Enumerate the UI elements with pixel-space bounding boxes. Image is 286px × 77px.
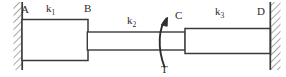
label-k3-subscript: 3 [221, 11, 225, 20]
label-torque-t: T [161, 64, 168, 75]
label-stiffness-k2: k2 [127, 15, 136, 29]
segment-ab-body [22, 20, 88, 61]
diagram-canvas [0, 0, 286, 77]
torsional-shaft-diagram: A k1 B k2 C k3 D T [0, 0, 286, 77]
segment-bc-body [87, 32, 185, 50]
torque-arrowhead [161, 17, 168, 26]
segment-cd-body [185, 29, 271, 54]
segment-bc-outline [87, 32, 185, 50]
segment-ab-outline [22, 20, 88, 61]
label-k1-subscript: 1 [52, 8, 56, 17]
label-stiffness-k1: k1 [46, 3, 55, 17]
label-node-c: C [175, 10, 182, 21]
label-node-d: D [257, 6, 265, 17]
segment-cd-outline [185, 29, 271, 54]
right-wall-hatching [271, 2, 281, 70]
label-node-a: A [21, 4, 29, 15]
right-wall-support [270, 2, 280, 70]
label-k2-subscript: 2 [133, 20, 137, 29]
label-node-b: B [84, 3, 91, 14]
label-stiffness-k3: k3 [215, 6, 224, 20]
